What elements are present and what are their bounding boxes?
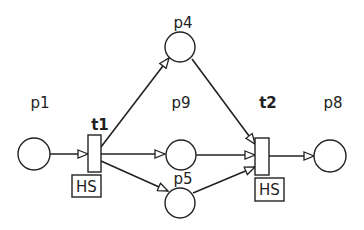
transition-label: t2: [259, 94, 277, 112]
hs-label: HS: [259, 181, 280, 199]
arc-p5-t2: [193, 167, 255, 193]
place-p5[interactable]: p5: [165, 170, 195, 218]
place-p8[interactable]: p8: [314, 94, 346, 172]
place-circle: [166, 140, 196, 170]
transition-bar: [255, 138, 269, 175]
place-circle: [165, 188, 195, 218]
transition-label: t1: [91, 116, 109, 134]
place-p9[interactable]: p9: [166, 94, 196, 170]
arc-p4-t2: [192, 59, 255, 144]
place-label: p8: [323, 94, 342, 112]
arc-t1-p4: [101, 58, 169, 147]
transition-t2[interactable]: t2 HS: [255, 94, 284, 201]
place-label: p4: [173, 14, 192, 32]
petri-net-diagram: p1 p4 p9 p5 p8 t1 HS t2 HS: [0, 0, 364, 230]
transition-bar: [88, 135, 101, 172]
place-circle: [314, 140, 346, 172]
hs-label: HS: [76, 178, 97, 196]
place-p4[interactable]: p4: [165, 14, 195, 62]
place-label: p1: [30, 94, 49, 112]
place-label: p5: [173, 170, 192, 188]
place-label: p9: [171, 94, 190, 112]
place-p1[interactable]: p1: [18, 94, 50, 170]
arc-t1-p5: [101, 161, 168, 191]
place-circle: [165, 32, 195, 62]
transition-t1[interactable]: t1 HS: [72, 116, 109, 197]
place-circle: [18, 138, 50, 170]
